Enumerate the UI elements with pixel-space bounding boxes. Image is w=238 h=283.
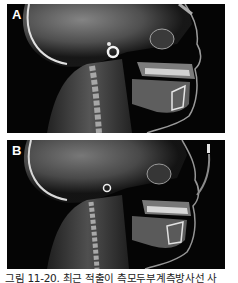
radiograph-panel-b: B <box>7 140 225 269</box>
xray-image-a <box>7 4 225 133</box>
panel-label-a: A <box>12 7 21 22</box>
figure-caption: 그림 11-20. 최근 적출이 측모두부계측방사선 사 <box>5 270 217 283</box>
panel-label-b: B <box>12 143 21 158</box>
radiograph-panel-a: A <box>7 4 225 133</box>
xray-image-b <box>7 140 225 269</box>
